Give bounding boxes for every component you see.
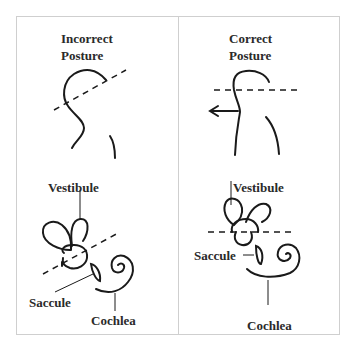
- incorrect-cochlea: [96, 256, 133, 292]
- correct-saccule: [256, 246, 262, 264]
- incorrect-back-line: [110, 136, 115, 158]
- incorrect-saccule-label: Saccule: [29, 295, 71, 311]
- correct-utricle-sac: [235, 232, 252, 245]
- correct-vestibule-label: Vestibule: [233, 180, 284, 196]
- incorrect-head-profile: [64, 70, 106, 148]
- incorrect-vestibule-plane-line: [43, 232, 120, 274]
- correct-back-line: [266, 117, 279, 154]
- correct-head-profile: [234, 71, 270, 155]
- correct-saccule-label: Saccule: [194, 248, 236, 264]
- incorrect-vestibule-loop-right: [71, 219, 87, 246]
- incorrect-cochlea-label: Cochlea: [91, 313, 136, 329]
- correct-utricle: [232, 219, 258, 232]
- arrow-left-icon: [210, 106, 238, 116]
- incorrect-vestibule-label: Vestibule: [48, 180, 99, 196]
- incorrect-saccule: [91, 264, 100, 281]
- incorrect-saccule-leader: [55, 274, 93, 292]
- correct-cochlea: [247, 245, 299, 277]
- correct-cochlea-label: Cochlea: [247, 318, 292, 334]
